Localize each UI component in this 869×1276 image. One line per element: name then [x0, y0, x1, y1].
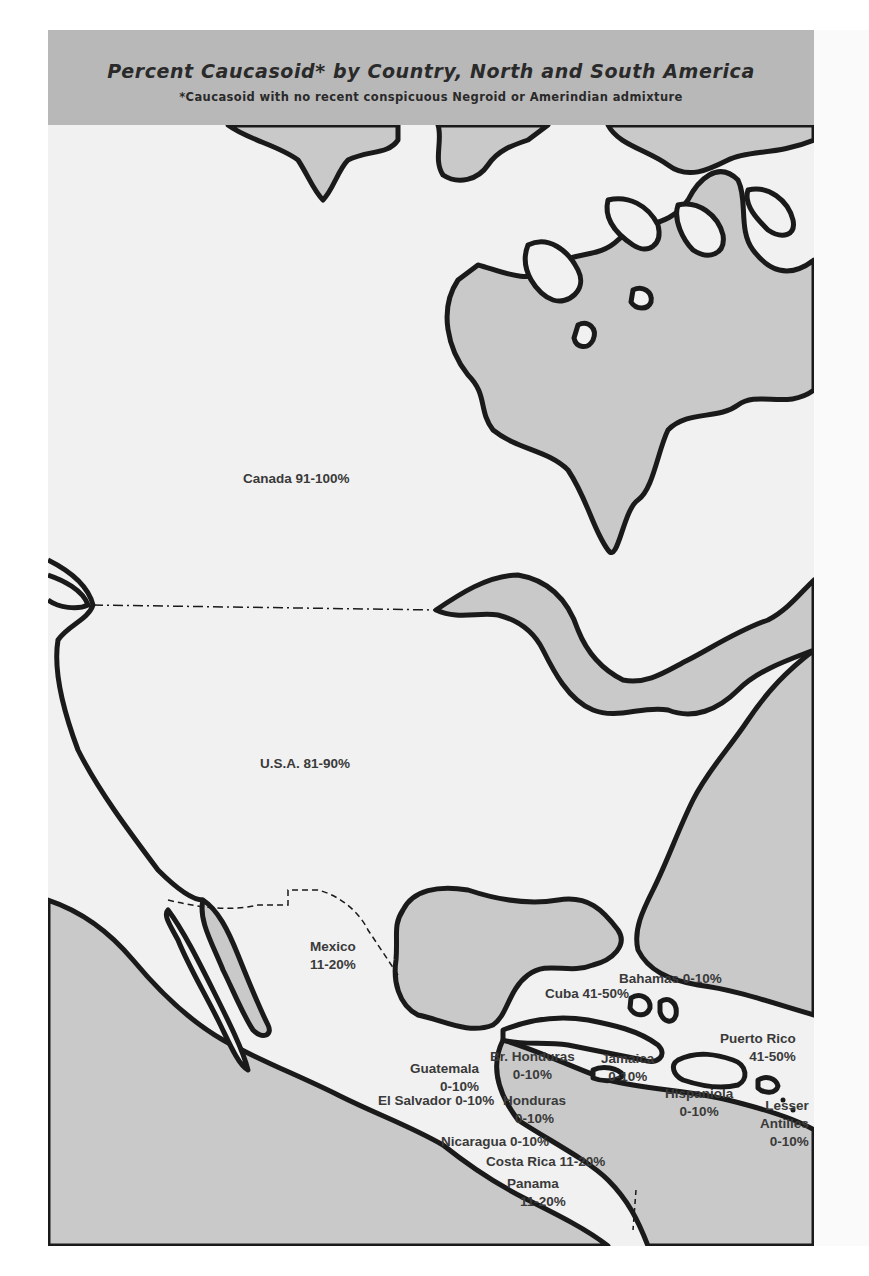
island-small-1 — [631, 288, 651, 308]
page: Percent Caucasoid* by Country, North and… — [0, 0, 869, 1276]
label-jamaica: Jamaica 0-10% — [601, 1050, 654, 1086]
label-hispaniola: Hispaniola 0-10% — [665, 1085, 733, 1121]
label-hispaniola-name: Hispaniola — [665, 1085, 733, 1103]
label-cuba: Cuba 41-50% — [545, 985, 629, 1003]
great-lakes — [436, 575, 814, 714]
arctic-channel-2 — [438, 125, 548, 180]
canada-usa-border — [93, 605, 436, 610]
label-el-salvador: El Salvador 0-10% — [378, 1092, 494, 1110]
label-lesser-antilles-name-1: Lesser — [760, 1097, 809, 1115]
label-guatemala-name: Guatemala — [410, 1060, 479, 1078]
island-bahamas-1 — [630, 996, 650, 1015]
label-panama: Panama 11-20% — [500, 1175, 566, 1211]
label-mexico-name: Mexico — [310, 938, 356, 956]
label-jamaica-value: 0-10% — [601, 1068, 654, 1086]
label-panama-value: 11-20% — [500, 1193, 566, 1211]
label-costa-rica: Costa Rica 11-20% — [486, 1153, 605, 1171]
map-footnote: *Caucasoid with no recent conspicuous Ne… — [48, 90, 814, 104]
map-frame: Percent Caucasoid* by Country, North and… — [48, 30, 814, 1246]
label-honduras: Honduras 0-10% — [503, 1092, 566, 1128]
label-puerto-rico-name: Puerto Rico — [720, 1030, 796, 1048]
label-hispaniola-value: 0-10% — [665, 1103, 733, 1121]
island-bahamas-2 — [660, 1000, 676, 1022]
label-puerto-rico: Puerto Rico 41-50% — [720, 1030, 796, 1066]
label-lesser-antilles: Lesser Antilles 0-10% — [760, 1097, 809, 1151]
label-mexico-value: 11-20% — [310, 956, 356, 974]
gulf-of-california — [202, 900, 269, 1035]
label-mexico: Mexico 11-20% — [310, 938, 356, 974]
label-nicaragua: Nicaragua 0-10% — [441, 1133, 549, 1151]
label-puerto-rico-value: 41-50% — [720, 1048, 796, 1066]
arctic-channel-3 — [608, 125, 814, 173]
island-small-2 — [574, 323, 594, 346]
west-coastline — [48, 560, 203, 900]
label-panama-name: Panama — [500, 1175, 566, 1193]
label-lesser-antilles-name-2: Antilles — [760, 1115, 809, 1133]
arctic-channel-1 — [228, 125, 398, 200]
label-br-honduras-name: Br. Honduras — [490, 1048, 575, 1066]
label-guatemala: Guatemala 0-10% — [410, 1060, 479, 1096]
label-jamaica-name: Jamaica — [601, 1050, 654, 1068]
island-puerto-rico — [758, 1078, 778, 1093]
label-lesser-antilles-value: 0-10% — [760, 1133, 809, 1151]
scan-margin — [814, 30, 869, 1246]
label-br-honduras-value: 0-10% — [490, 1066, 575, 1084]
label-honduras-name: Honduras — [503, 1092, 566, 1110]
label-usa: U.S.A. 81-90% — [260, 755, 350, 773]
label-honduras-value: 0-10% — [503, 1110, 566, 1128]
label-br-honduras: Br. Honduras 0-10% — [490, 1048, 575, 1084]
island-arctic-4 — [747, 189, 793, 235]
vancouver-inlet — [48, 575, 88, 608]
label-canada: Canada 91-100% — [243, 470, 350, 488]
map-header: Percent Caucasoid* by Country, North and… — [48, 30, 814, 125]
gulf-of-mexico — [395, 888, 621, 1028]
map-title: Percent Caucasoid* by Country, North and… — [48, 60, 814, 82]
label-bahamas: Bahamas 0-10% — [619, 970, 722, 988]
